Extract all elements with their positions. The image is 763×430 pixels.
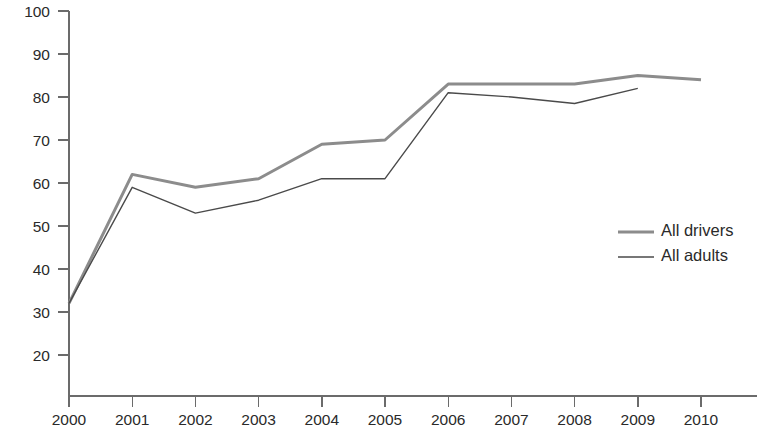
x-tick-label: 2009 [621,411,655,428]
legend-item-all-drivers: All drivers [618,221,733,239]
x-tick-label: 2004 [305,411,340,428]
y-tick-label: 70 [33,132,51,149]
data-series-group [69,76,701,304]
x-tick-label: 2001 [115,411,149,428]
y-tick-label: 50 [33,218,51,235]
y-tick-label: 80 [33,89,51,106]
x-tick-label: 2006 [431,411,465,428]
y-tick-label: 60 [33,175,51,192]
series-line-all-adults [69,88,638,303]
y-tick-label: 90 [33,46,51,63]
legend-label: All adults [661,246,728,264]
chart-legend: All driversAll adults [618,221,733,264]
y-tick-label: 100 [24,3,50,20]
x-axis-ticks [69,396,701,407]
x-tick-label: 2008 [557,411,591,428]
x-tick-label: 2003 [241,411,275,428]
legend-item-all-adults: All adults [618,246,728,264]
chart-canvas: 2030405060708090100 20002001200220032004… [0,0,763,430]
x-axis-tick-labels: 2000200120022003200420052006200720082009… [52,411,719,428]
y-tick-label: 40 [33,261,51,278]
series-line-all-drivers [69,76,701,304]
y-tick-label: 30 [33,304,51,321]
legend-label: All drivers [661,221,733,239]
line-chart: 2030405060708090100 20002001200220032004… [0,0,763,430]
x-tick-label: 2010 [684,411,719,428]
y-tick-label: 20 [33,347,51,364]
x-tick-label: 2000 [52,411,87,428]
x-tick-label: 2007 [494,411,528,428]
y-axis-ticks [58,11,69,355]
y-axis-tick-labels: 2030405060708090100 [24,3,50,364]
x-tick-label: 2005 [368,411,402,428]
x-tick-label: 2002 [178,411,212,428]
